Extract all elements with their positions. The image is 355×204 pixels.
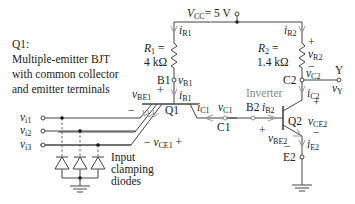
vcc-terminal — [235, 12, 239, 16]
vbe1-plus: + — [157, 84, 164, 96]
r1-value: 4 kΩ — [144, 56, 167, 68]
ic1-label: iC1 — [197, 101, 210, 115]
q2-label: Q2 — [288, 115, 302, 127]
vi3-label: vi3 — [20, 138, 31, 152]
clamp-label-line3: diodes — [111, 175, 142, 187]
vy-label: vY — [332, 82, 343, 96]
y-label: Y — [335, 64, 344, 76]
ground-icon-diodes — [70, 186, 90, 192]
ib1-label: iB1 — [179, 89, 192, 103]
clamp-diode-2-icon — [73, 157, 87, 169]
vce1-label: − vCE1 + — [144, 136, 182, 150]
vc1-label: vC1 — [218, 101, 232, 115]
c2-label: C2 — [283, 74, 297, 86]
vce2-minus: − — [313, 126, 320, 138]
ib2-label: iB2 — [262, 101, 275, 115]
y-terminal — [337, 78, 341, 82]
b2-label: B2 — [246, 101, 260, 113]
q1-label: Q1 — [165, 104, 179, 116]
desc-line2: Multiple-emitter BJT — [12, 53, 110, 66]
b2-terminal — [251, 116, 255, 120]
vi1-terminal[interactable] — [41, 116, 45, 120]
ic2-label: iC2 — [307, 87, 320, 101]
ie2-label: iE2 — [307, 138, 319, 152]
r1-name: R1 = — [143, 42, 164, 56]
c2-terminal — [300, 78, 304, 82]
vi1-label: vi1 — [20, 111, 31, 125]
e2-label: E2 — [283, 151, 296, 163]
c1-label: C1 — [217, 121, 231, 133]
vcc-label: VCC= 5 V — [187, 7, 231, 21]
e2-terminal — [300, 155, 304, 159]
vbe1-minus: − — [128, 104, 135, 116]
vbe1-label: vBE1 — [132, 88, 151, 102]
r1-resistor — [171, 43, 177, 78]
inverter-label: Inverter — [246, 87, 283, 99]
r2-resistor — [299, 43, 305, 78]
desc-line1: Q1: — [12, 38, 29, 50]
clamp-diode-1-icon — [55, 157, 69, 169]
r2-value: 1.4 kΩ — [257, 56, 289, 68]
c1-terminal — [223, 116, 227, 120]
circuit-diagram: Q1: Multiple-emitter BJT with common col… — [0, 0, 355, 204]
clamp-diode-3-icon — [91, 157, 105, 169]
desc-line4: and emitter terminals — [12, 83, 110, 95]
vi2-label: vi2 — [20, 124, 31, 138]
ir2-label: iR2 — [284, 24, 297, 38]
q1-emitter-arrow-3 — [153, 110, 159, 117]
vr2-plus: + — [308, 36, 315, 48]
vb1-label: vB1 — [178, 74, 192, 88]
r2-name: R2 = — [257, 42, 278, 56]
vi2-terminal[interactable] — [41, 129, 45, 133]
vi3-terminal[interactable] — [41, 143, 45, 147]
ground-icon-q2 — [292, 185, 312, 191]
b1-terminal — [172, 78, 176, 82]
vbe2-plus: + — [259, 124, 266, 136]
desc-line3: with common collector — [12, 68, 119, 80]
ir1-label: iR1 — [179, 24, 192, 38]
